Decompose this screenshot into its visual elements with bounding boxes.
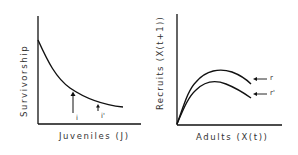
arrow-up-icon-i — [71, 92, 76, 114]
survivorship-plot: i i' Survivorship Juveniles (J) — [0, 0, 148, 155]
mark-r-prime-label: r' — [270, 89, 275, 97]
mark-i-prime-label: i' — [101, 112, 105, 120]
x-axis-label: Adults (X(t)) — [196, 132, 269, 142]
y-axis-label: Survivorship — [19, 45, 29, 117]
arrow-up-icon-i-prime — [96, 104, 100, 111]
mark-i-label: i — [76, 114, 78, 122]
arrow-left-icon-r-prime — [253, 92, 267, 96]
curve-r — [177, 70, 251, 124]
curve-r-prime — [177, 82, 251, 124]
y-axis-label: Recruits (X(t+1)) — [155, 16, 165, 110]
arrow-left-icon-r — [253, 77, 267, 81]
survivorship-curve — [38, 40, 123, 107]
mark-r-label: r — [270, 74, 273, 82]
x-axis-label: Juveniles (J) — [59, 131, 130, 141]
recruitment-plot: r r' Recruits (X(t+1)) Adults (X(t)) — [148, 0, 298, 155]
